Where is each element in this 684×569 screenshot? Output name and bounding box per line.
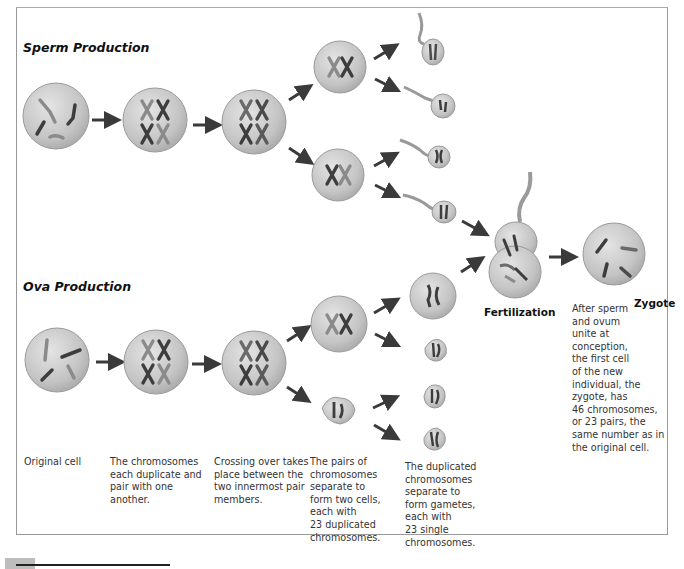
arrow-icon	[462, 221, 482, 232]
caption-original-cell: Original cell	[24, 456, 104, 469]
arrow-icon	[287, 387, 304, 398]
sperm-crossing-over-cell	[222, 90, 286, 154]
arrow-icon	[373, 399, 392, 408]
ova-polar-body-3	[424, 385, 445, 408]
arrow-icon	[374, 156, 392, 166]
sperm-meiosis1-cell-top	[314, 41, 366, 93]
arrow-icon	[374, 425, 393, 436]
arrow-icon	[375, 334, 393, 343]
arrow-icon	[289, 89, 306, 100]
arrow-icon	[375, 79, 393, 88]
sperm-gamete-4	[403, 195, 456, 223]
caption-zygote: After sperm and ovum unite at conception…	[572, 303, 667, 454]
arrow-icon	[374, 302, 393, 313]
arrow-icon	[287, 330, 304, 341]
ova-production-title: Ova Production	[23, 279, 131, 294]
fertilization-label: Fertilization	[484, 306, 555, 318]
zygote-cell	[583, 223, 645, 285]
arrow-icon	[289, 148, 307, 160]
figure-tab-rule	[16, 564, 170, 566]
caption-duplicate: The chromosomes each duplicate and pair …	[110, 456, 215, 506]
arrow-icon	[374, 48, 392, 59]
ova-polar-body-4	[424, 428, 445, 450]
fertilization-cell	[489, 172, 541, 298]
sperm-gamete-2	[404, 87, 455, 118]
ova-polar-body-2	[425, 339, 446, 361]
caption-crossing-over: Crossing over takes place between the tw…	[214, 456, 319, 506]
arrow-icon	[375, 185, 393, 194]
ovum-cell	[410, 273, 456, 319]
caption-gametes: The duplicated chromosomes separate to f…	[405, 461, 495, 549]
sperm-duplicated-cell	[123, 88, 187, 152]
ova-duplicated-cell	[124, 330, 188, 394]
sperm-production-title: Sperm Production	[23, 40, 150, 55]
ova-original-cell	[25, 328, 89, 392]
sperm-meiosis1-cell-bottom	[312, 149, 364, 201]
sperm-original-cell	[23, 83, 89, 149]
arrow-icon	[461, 261, 478, 272]
sperm-gamete-1	[419, 13, 444, 65]
caption-pairs-separate: The pairs of chromosomes separate to for…	[310, 456, 400, 544]
ova-meiosis1-cell-top	[311, 296, 367, 352]
ova-crossing-over-cell	[222, 331, 286, 395]
sperm-gamete-3	[400, 140, 450, 168]
ova-polar-body-1	[322, 397, 355, 424]
